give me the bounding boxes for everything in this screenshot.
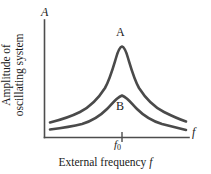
x-axis-symbol-label: f [192, 126, 195, 138]
curve-b-annotation: B [116, 100, 124, 112]
plot-area [0, 0, 211, 174]
y-axis-caption-line-2: oscillating system [13, 15, 26, 135]
y-axis-caption: Amplitude of oscillating system [0, 15, 26, 135]
resonance-curve-figure: A f A B f0 External frequency f Amplitud… [0, 0, 211, 174]
y-axis-caption-line-1: Amplitude of [0, 15, 13, 135]
x-axis-caption-symbol: f [149, 156, 152, 168]
x-axis-tick-label-f0: f0 [114, 139, 121, 150]
x-axis-caption-text: External frequency [59, 156, 147, 168]
curve-a-annotation: A [116, 26, 125, 38]
y-axis-symbol-label: A [41, 6, 48, 18]
x-axis-caption: External frequency f [0, 157, 211, 169]
tick-label-subscript: 0 [117, 143, 121, 152]
